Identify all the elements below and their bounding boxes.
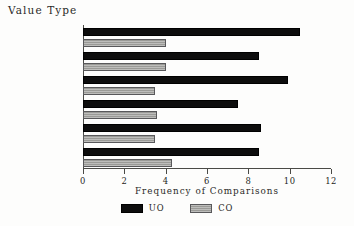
bar-co-social — [83, 111, 157, 119]
bar-uo-political — [83, 124, 261, 132]
bar-uo-religious — [83, 148, 259, 156]
bar-uo-aesthetic — [83, 76, 288, 84]
legend-swatch-icon — [121, 204, 143, 213]
y-axis-title: Value Type — [8, 4, 77, 16]
legend-swatch-icon — [190, 204, 212, 213]
x-tick-label: 0 — [80, 176, 86, 186]
bar-uo-social — [83, 100, 238, 108]
bar-uo-theoretical — [83, 28, 300, 36]
x-tick-label: 8 — [245, 176, 251, 186]
x-tick — [290, 169, 291, 174]
x-tick — [83, 169, 84, 174]
bar-group — [83, 75, 331, 99]
legend-item-co: CO — [190, 203, 233, 213]
x-tick-label: 4 — [163, 176, 169, 186]
x-tick — [166, 169, 167, 174]
legend-label: UO — [149, 203, 165, 213]
x-tick-label: 6 — [204, 176, 210, 186]
x-tick — [248, 169, 249, 174]
x-tick-label: 2 — [121, 176, 127, 186]
x-tick-label: 12 — [325, 176, 337, 186]
x-axis-title: Frequency of Comparisons — [83, 186, 331, 196]
bar-group — [83, 51, 331, 75]
bar-co-theoretical — [83, 39, 166, 47]
bar-co-religious — [83, 159, 172, 167]
x-tick-label: 10 — [284, 176, 296, 186]
bar-group — [83, 27, 331, 51]
bar-co-political — [83, 135, 155, 143]
bar-chart: Value Type TheoreticalEconomicAestheticS… — [0, 0, 354, 226]
x-tick — [331, 169, 332, 174]
bar-co-aesthetic — [83, 87, 155, 95]
bar-uo-economic — [83, 52, 259, 60]
legend-item-uo: UO — [121, 203, 165, 213]
x-tick — [207, 169, 208, 174]
plot-area: TheoreticalEconomicAestheticSocialPoliti… — [83, 25, 331, 169]
bar-group — [83, 99, 331, 123]
chart-legend: UOCO — [0, 203, 354, 213]
bar-group — [83, 123, 331, 147]
bar-group — [83, 147, 331, 171]
bar-co-economic — [83, 63, 166, 71]
x-tick — [124, 169, 125, 174]
legend-label: CO — [218, 203, 233, 213]
